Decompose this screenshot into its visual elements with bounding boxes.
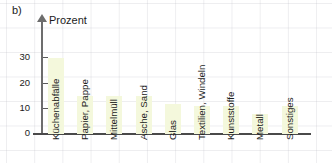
bar-category-label: Papier, Pappe xyxy=(80,79,90,140)
bar-category-label: Kunststoffe xyxy=(226,92,236,140)
bar-category-label: Asche, Sand xyxy=(139,85,149,140)
chart-plot-area: Prozent 0102030 KüchenabfällePapier, Pap… xyxy=(0,0,332,163)
bar-category-label: Mittelmüll xyxy=(109,99,119,140)
bar-category-label: Glas xyxy=(168,120,178,140)
bar-category-label: Sonstiges xyxy=(285,97,295,140)
bar-category-label: Metall xyxy=(255,114,265,140)
bars-layer: KüchenabfällePapier, PappeMittelmüllAsch… xyxy=(0,0,332,134)
bar-category-label: Textilien, Windeln xyxy=(197,65,207,140)
bar-category-label: Küchenabfälle xyxy=(51,79,61,140)
figure-b: b) Prozent 0102030 KüchenabfällePapier, … xyxy=(0,0,332,163)
